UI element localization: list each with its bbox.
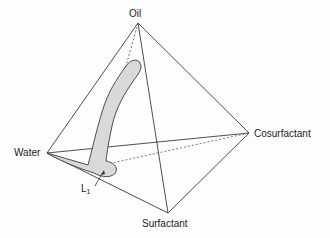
- tetrahedron-drawing: [0, 0, 330, 238]
- vertex-label-cosurfactant: Cosurfactant: [254, 128, 311, 139]
- region-label-subscript: 1: [87, 188, 91, 195]
- region-label-l1: L1: [81, 183, 90, 195]
- vertex-label-water: Water: [14, 147, 40, 158]
- phase-diagram: Oil Water Cosurfactant Surfactant L1: [0, 0, 330, 238]
- vertex-label-surfactant: Surfactant: [142, 218, 188, 229]
- tetrahedron-edges: [47, 23, 249, 213]
- l1-region: [47, 60, 141, 176]
- vertex-label-oil: Oil: [129, 8, 141, 19]
